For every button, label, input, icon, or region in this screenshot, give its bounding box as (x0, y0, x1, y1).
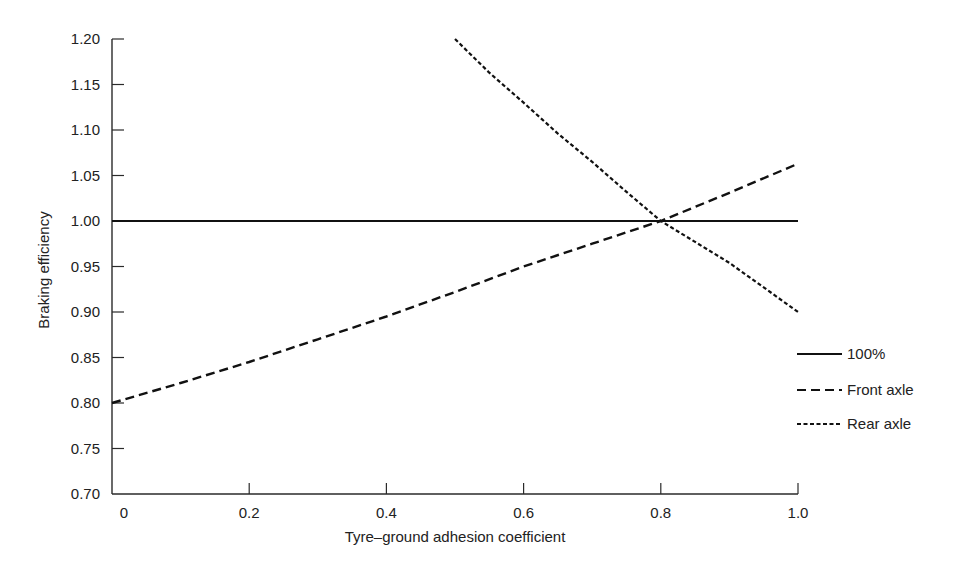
y-tick-label: 1.05 (71, 167, 100, 184)
y-tick-label: 0.70 (71, 485, 100, 502)
y-tick-label: 0.75 (71, 440, 100, 457)
x-tick-label: 0 (120, 504, 128, 521)
y-axis-title: Braking efficiency (35, 211, 52, 329)
legend-label: Rear axle (847, 415, 911, 432)
x-tick-label: 0.4 (376, 504, 397, 521)
x-tick-label: 0.2 (239, 504, 260, 521)
y-tick-label: 0.85 (71, 349, 100, 366)
x-axis-title: Tyre–ground adhesion coefficient (345, 528, 567, 545)
legend: 100%Front axleRear axle (797, 345, 914, 432)
y-tick-label: 0.80 (71, 394, 100, 411)
legend-item: Front axle (797, 381, 914, 398)
legend-item: Rear axle (797, 415, 911, 432)
y-tick-label: 0.95 (71, 258, 100, 275)
x-tick-label: 0.6 (513, 504, 534, 521)
y-tick-label: 1.20 (71, 30, 100, 47)
braking-efficiency-chart: 0.700.750.800.850.900.951.001.051.101.15… (0, 0, 959, 575)
x-tick-label: 1.0 (788, 504, 809, 521)
y-tick-label: 1.15 (71, 76, 100, 93)
y-tick-label: 1.00 (71, 212, 100, 229)
plot-series (112, 39, 798, 403)
axes: 0.700.750.800.850.900.951.001.051.101.15… (71, 30, 809, 521)
legend-label: Front axle (847, 381, 914, 398)
y-tick-label: 1.10 (71, 121, 100, 138)
series-front-axle-line (112, 164, 798, 403)
y-tick-label: 0.90 (71, 303, 100, 320)
legend-label: 100% (847, 345, 885, 362)
series-rear-axle-line (455, 39, 798, 312)
x-tick-label: 0.8 (650, 504, 671, 521)
legend-item: 100% (797, 345, 885, 362)
